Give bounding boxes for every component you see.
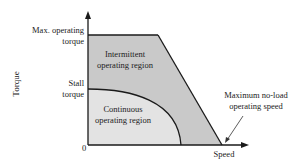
y-axis-label: Torque: [11, 71, 21, 96]
max-no-load-speed-label-line2: operating speed: [229, 101, 283, 111]
max-no-load-speed-label-line1: Maximum no-load: [224, 90, 288, 100]
annotation-leader-line: [227, 116, 243, 140]
x-axis-arrow-icon: [241, 142, 249, 148]
torque-speed-diagram: Torque Max. operating torque Stall torqu…: [0, 0, 295, 161]
continuous-region-label-line1: Continuous: [103, 104, 142, 114]
intermittent-region-label-line1: Intermittent: [105, 49, 146, 59]
origin-label: 0: [82, 143, 86, 153]
max-torque-label-line2: torque: [62, 36, 84, 46]
x-axis-label: Speed: [214, 149, 236, 159]
max-torque-label-line1: Max. operating: [32, 25, 85, 35]
y-axis-arrow-icon: [85, 11, 91, 19]
intermittent-region-label-line2: operating region: [97, 60, 154, 70]
continuous-region-label-line2: operating region: [95, 115, 152, 125]
annotation-arrow-icon: [225, 137, 230, 143]
stall-torque-label-line1: Stall: [68, 78, 84, 88]
stall-torque-label-line2: torque: [62, 89, 84, 99]
